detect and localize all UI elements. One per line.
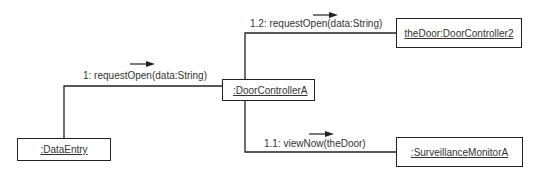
object-label: :DoorControllerA [233,85,307,96]
object-label: :DataEntry [40,144,87,155]
link-dataentry-doorcontroller [64,86,222,139]
object-doorcontroller[interactable]: :DoorControllerA [222,79,315,101]
object-label: theDoor:DoorController2 [405,28,514,39]
object-dataentry[interactable]: :DataEntry [17,138,111,161]
object-label: :SurveillanceMonitorA [411,147,508,158]
object-thedoor[interactable]: theDoor:DoorController2 [396,18,522,48]
message-label-1-1: 1.1: viewNow(theDoor) [264,138,366,149]
arrow-right-icon [309,131,334,137]
message-label-1-2: 1.2: requestOpen(data:String) [250,18,382,29]
message-label-1: 1: requestOpen(data:String) [83,70,207,81]
link-doorcontroller-thedoor [245,33,396,79]
arrow-right-icon [130,61,155,67]
object-surveillance-monitor[interactable]: :SurveillanceMonitorA [396,137,523,167]
